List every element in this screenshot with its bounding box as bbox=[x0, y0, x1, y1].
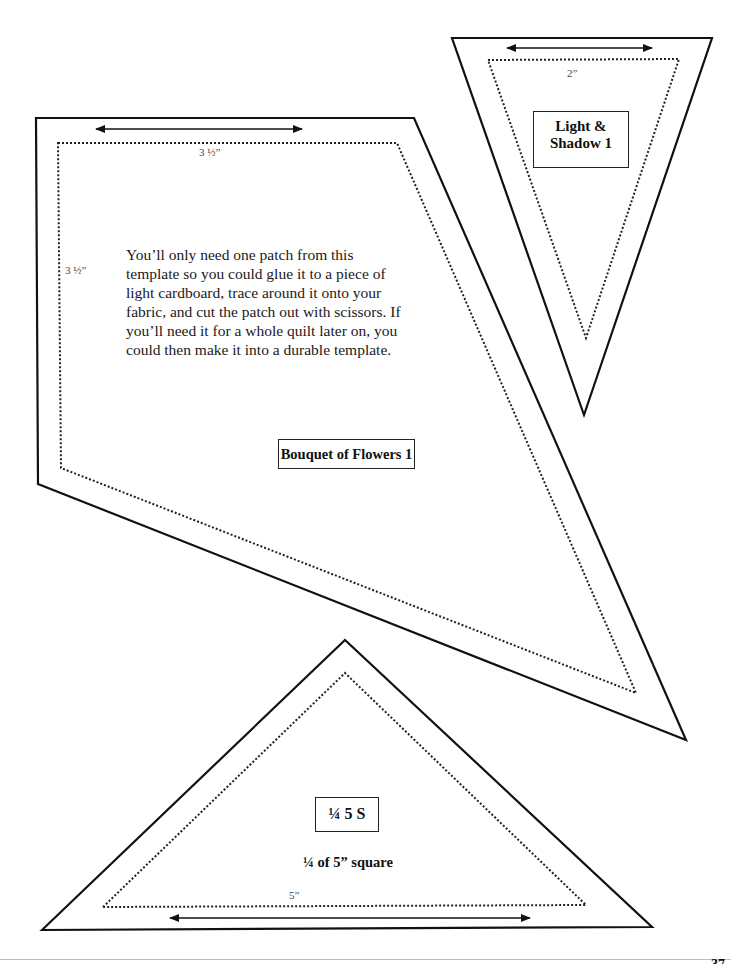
quarter-square-dimension: 5” bbox=[289, 889, 299, 901]
bouquet-seam-line bbox=[58, 143, 636, 693]
bouquet-label-box: Bouquet of Flowers 1 bbox=[278, 439, 415, 469]
quarter-square-subtitle: ¼ of 5” square bbox=[303, 854, 393, 871]
light-shadow-template bbox=[452, 38, 712, 415]
bouquet-template bbox=[36, 118, 686, 740]
light-shadow-label-line1: Light & bbox=[534, 118, 628, 135]
bouquet-instructions: You’ll only need one patch from this tem… bbox=[126, 245, 406, 359]
quarter-square-template bbox=[42, 640, 652, 930]
quarter-square-label-box: ¼ 5 S bbox=[315, 797, 379, 832]
light-shadow-label-box: Light & Shadow 1 bbox=[533, 111, 629, 168]
quarter-square-seam-line bbox=[103, 673, 586, 907]
light-shadow-dimension: 2” bbox=[567, 67, 577, 79]
quarter-square-cut-line bbox=[42, 640, 652, 930]
page-number: 37 bbox=[711, 958, 725, 964]
footer-rule bbox=[0, 959, 731, 960]
light-shadow-cut-line bbox=[452, 38, 712, 415]
bouquet-top-dimension: 3 ½” bbox=[199, 146, 220, 158]
bouquet-side-dimension: 3 ½” bbox=[65, 264, 86, 276]
light-shadow-seam-line bbox=[488, 59, 679, 338]
bouquet-cut-line bbox=[36, 118, 686, 740]
light-shadow-label-line2: Shadow 1 bbox=[534, 135, 628, 152]
